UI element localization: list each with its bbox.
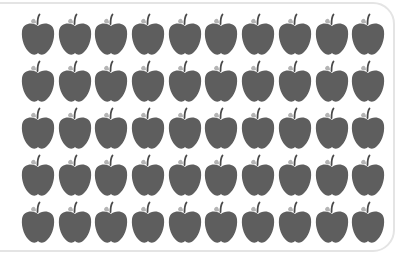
apple-icon [350, 107, 387, 151]
apple-icon [314, 154, 351, 198]
apple-icon [277, 13, 314, 57]
apple-icon [93, 60, 130, 104]
apple-icon [57, 13, 94, 57]
apple-icon [93, 13, 130, 57]
apple-icon [167, 60, 204, 104]
apple-icon [130, 60, 167, 104]
apple-icon [277, 60, 314, 104]
apple-icon [167, 107, 204, 151]
apple-icon [203, 107, 240, 151]
apple-icon [167, 154, 204, 198]
apple-icon [240, 13, 277, 57]
apple-icon [130, 107, 167, 151]
apple-icon [20, 201, 57, 245]
apple-icon [57, 60, 94, 104]
apple-icon [20, 60, 57, 104]
apple-icon [314, 107, 351, 151]
apple-icon [350, 13, 387, 57]
apple-icon [57, 154, 94, 198]
apple-icon [93, 154, 130, 198]
apple-icon [314, 60, 351, 104]
apple-icon [57, 107, 94, 151]
apple-icon [314, 201, 351, 245]
apple-icon [203, 60, 240, 104]
apple-icon [57, 201, 94, 245]
apple-icon [130, 154, 167, 198]
apple-icon [240, 107, 277, 151]
apple-icon [350, 201, 387, 245]
apple-icon [277, 154, 314, 198]
apple-icon [203, 201, 240, 245]
apple-icon [20, 107, 57, 151]
apple-icon [240, 154, 277, 198]
apple-icon [20, 154, 57, 198]
apple-icon [240, 201, 277, 245]
apple-icon [350, 60, 387, 104]
apple-row [20, 107, 387, 154]
apple-icon [93, 201, 130, 245]
apple-icon [130, 201, 167, 245]
apple-row [20, 201, 387, 248]
apple-icon [350, 154, 387, 198]
apple-icon [203, 154, 240, 198]
apple-row [20, 13, 387, 60]
apple-icon [130, 13, 167, 57]
apple-row [20, 60, 387, 107]
apple-grid [20, 13, 387, 248]
apple-icon [203, 13, 240, 57]
apple-icon [167, 13, 204, 57]
apple-icon [167, 201, 204, 245]
apple-icon [277, 107, 314, 151]
apple-icon [314, 13, 351, 57]
apple-icon [277, 201, 314, 245]
apple-row [20, 154, 387, 201]
apple-icon [93, 107, 130, 151]
apple-icon [240, 60, 277, 104]
apple-icon [20, 13, 57, 57]
